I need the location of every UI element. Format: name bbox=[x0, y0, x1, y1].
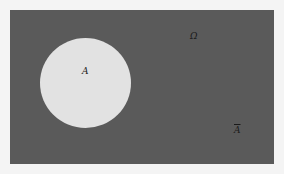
set-a-label: A bbox=[82, 67, 89, 76]
complement-label: A bbox=[234, 126, 241, 135]
venn-diagram: Ω A A bbox=[0, 0, 284, 174]
universe-label: Ω bbox=[190, 32, 197, 41]
set-a-circle bbox=[40, 38, 131, 128]
